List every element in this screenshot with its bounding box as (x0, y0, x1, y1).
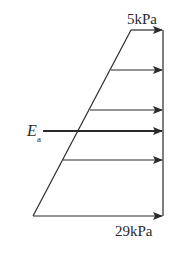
earth-pressure-diagram: 5kPa 29kPa E a (0, 0, 181, 258)
resultant-label: E (26, 122, 37, 139)
pressure-envelope-line (33, 30, 131, 216)
bottom-pressure-label: 29kPa (115, 223, 153, 239)
diagram-svg: 5kPa 29kPa E a (0, 0, 181, 258)
pressure-arrows (33, 30, 162, 216)
top-pressure-label: 5kPa (127, 11, 157, 27)
resultant-subscript: a (37, 134, 41, 144)
